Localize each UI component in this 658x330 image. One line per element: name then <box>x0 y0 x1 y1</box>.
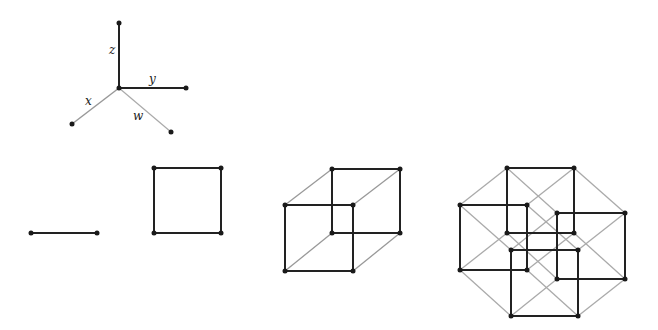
axis-label-y: y <box>148 72 156 86</box>
dimension-diagram: z y x w <box>0 0 658 330</box>
segment-1d <box>29 231 100 236</box>
axis-label-w: w <box>133 109 144 123</box>
coordinate-axes: z y x w <box>70 21 189 135</box>
axis-label-x: x <box>85 94 92 108</box>
axis-label-z: z <box>108 43 116 57</box>
tesseract-4d <box>458 166 628 319</box>
square-2d <box>152 166 224 236</box>
cube-3d <box>283 167 403 274</box>
